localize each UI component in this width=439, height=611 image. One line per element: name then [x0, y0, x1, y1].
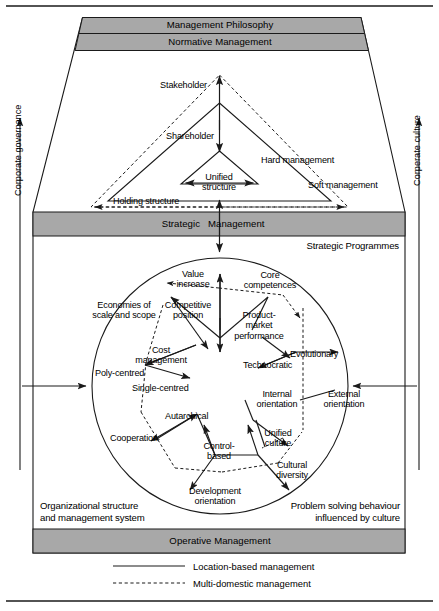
- legend-label-location-based: Location-based management: [193, 561, 314, 572]
- label-holding-structure: Holding structure: [113, 196, 179, 206]
- label-hard-management: Hard management: [261, 155, 334, 165]
- label-technocratic: Technocratic: [243, 360, 292, 370]
- label-core-competences: Core competences: [244, 270, 296, 291]
- label-stakeholder: Stakeholder: [160, 80, 207, 90]
- label-product-market-performance: Product- market performance: [234, 310, 283, 341]
- label-internal-orientation: Internal orientation: [257, 389, 298, 410]
- label-control-based: Control- based: [203, 441, 234, 462]
- label-cost-management: Cost management: [135, 345, 187, 366]
- label-competitive-position: Competitive position: [165, 300, 211, 321]
- band-label-operative-management: Operative Management: [169, 535, 270, 546]
- label-autarchical: Autarchical: [165, 411, 208, 421]
- band-label-management: Management: [208, 218, 265, 229]
- legend-sample-lines: [113, 566, 185, 583]
- note-organizational-structure: Organizational structure and management …: [40, 500, 145, 523]
- figure-canvas: Management Philosophy Normative Manageme…: [0, 0, 439, 611]
- label-unified-structure: Unified structure: [202, 172, 236, 193]
- band-label-normative-management: Normative Management: [168, 36, 271, 47]
- band-label-management-philosophy: Management Philosophy: [167, 19, 274, 30]
- label-poly-centred: Poly-centred: [95, 368, 144, 378]
- label-cultural-diversity: Cultural diversity: [276, 460, 308, 481]
- label-shareholder: Shareholder: [166, 131, 214, 141]
- band-label-strategic: Strategic: [162, 218, 200, 229]
- axis-label-corporate-culture: Corperate culture: [412, 115, 422, 186]
- label-external-orientation: External orientation: [324, 389, 365, 410]
- axis-label-corporate-governance: Corporate governance: [13, 105, 23, 196]
- note-problem-solving-behaviour: Problem solving behaviour influenced by …: [291, 500, 400, 523]
- label-unified-culture: Unified culture: [264, 428, 291, 449]
- legend-label-multi-domestic: Multi-domestic management: [193, 578, 311, 589]
- label-value-increase: Value increase: [176, 269, 209, 290]
- label-economies-of-scale-and-scope: Economies of scale and scope: [92, 300, 155, 321]
- label-evolutionary: Evolutionary: [290, 349, 338, 359]
- label-development-orientation: Development orientation: [189, 486, 241, 507]
- label-strategic-programmes: Strategic Programmes: [307, 241, 399, 251]
- label-cooperation: Cooperation: [110, 433, 158, 443]
- label-soft-management: Soft management: [308, 180, 378, 190]
- label-single-centred: Single-centred: [132, 383, 189, 393]
